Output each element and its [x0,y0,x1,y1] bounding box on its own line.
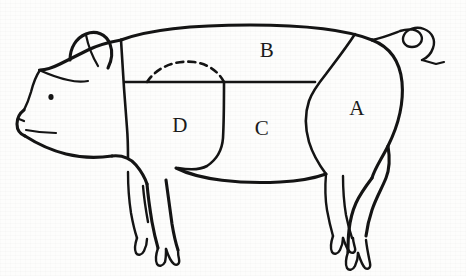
cut-label-a: A [349,96,365,120]
divider-ham-curve [306,34,355,174]
nostril-line [19,119,24,121]
cut-label-c: C [255,116,270,140]
hind-leg-far [325,174,333,236]
cheek-crease [39,70,88,82]
hind-hoof-far [331,236,343,254]
pig-drawing: B A C D [0,0,466,276]
cut-label-d: D [172,113,188,137]
pig-cut-diagram: B A C D [0,0,466,276]
snout-outline [17,110,25,136]
tail-tip [422,60,444,64]
hind-leg-near-back [366,146,389,236]
hind-leg-near [348,178,372,252]
front-hoof-far [135,238,147,255]
front-hoof-near-claw [166,249,179,265]
mouth-line [26,130,56,133]
hind-hoof-near [346,252,358,270]
front-leg-near-back [166,180,178,250]
back-outline [121,25,372,40]
front-leg-near [147,184,158,248]
eye-icon [48,94,53,100]
front-hoof-near [156,248,166,266]
hind-hoof-near-claw [358,240,370,269]
brow-outline [24,70,40,110]
divider-shoulder-vertical [121,40,128,158]
front-leg-far [128,172,137,238]
rump-outline [372,40,402,178]
cut-label-b: B [260,38,275,62]
divider-shoulder-blade-dashed [147,62,224,82]
jaw-outline [25,136,112,157]
chest-outline [112,156,147,184]
belly-outline [176,168,326,182]
